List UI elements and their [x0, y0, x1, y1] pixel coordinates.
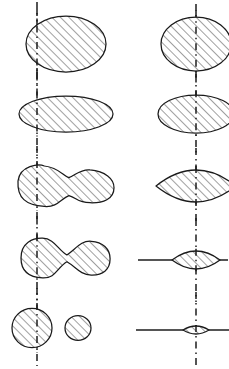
- shape-lens-biconvex: [156, 170, 229, 202]
- right-sequence-column: [136, 4, 229, 368]
- shape-oblate-spheroid: [26, 16, 106, 72]
- fragment-small-sphere: [65, 316, 91, 341]
- shape-flattened-ellipsoid: [158, 95, 229, 133]
- fragment-large-sphere: [12, 308, 52, 347]
- right-row-2: [158, 74, 229, 154]
- figure-canvas: [0, 0, 229, 369]
- right-row-3: [156, 148, 229, 226]
- shape-flattened-ellipsoid: [19, 96, 113, 132]
- left-sequence-column: [12, 2, 114, 366]
- left-row-3: [18, 146, 114, 228]
- shape-oblate-spheroid: [161, 17, 229, 71]
- left-row-2: [19, 72, 113, 156]
- right-row-5: [136, 292, 229, 368]
- left-row-1: [26, 2, 106, 86]
- right-row-4: [138, 218, 228, 302]
- left-row-5: [12, 288, 91, 366]
- shape-peanut-waisted: [18, 165, 114, 206]
- right-row-1: [161, 4, 229, 84]
- shape-pinched-dumbbell: [21, 238, 110, 278]
- left-row-4: [21, 216, 110, 300]
- shape-sequence-diagram: [0, 0, 229, 369]
